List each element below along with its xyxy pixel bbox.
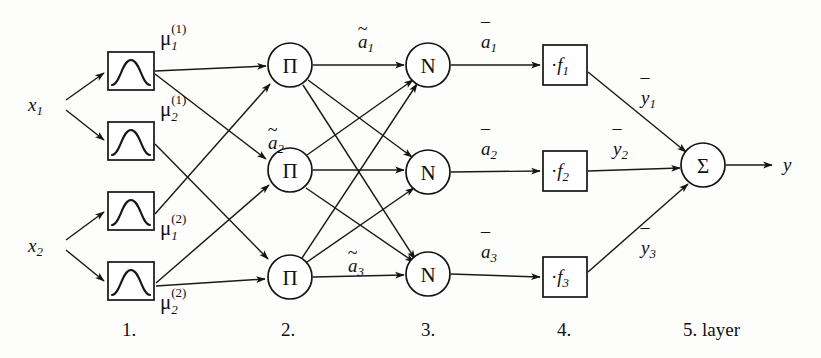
ybar2-sub: 2 xyxy=(621,147,627,162)
mf-sup-mf22: (2) xyxy=(171,286,186,299)
mf-base-mf22: μ xyxy=(160,290,171,314)
normalization-node-n3[interactable]: N xyxy=(406,252,450,296)
tilde-accent-icon: ~ xyxy=(268,121,278,139)
mf-label-mf22: μ (2) 2 xyxy=(160,292,171,313)
edge-label-atilde3: ~a3 xyxy=(348,256,364,279)
atilde2-sub: 2 xyxy=(278,141,284,156)
f2-sub: 2 xyxy=(563,169,569,184)
input-label-x1: x1 xyxy=(28,95,43,118)
product-node-glyph: Π xyxy=(282,159,297,183)
edge-n3-to-f3 xyxy=(451,274,540,277)
normalization-node-glyph: N xyxy=(420,161,435,185)
edge-x2-to-mf12 xyxy=(66,212,104,240)
layer-caption-3: 3. xyxy=(421,320,435,339)
bar-accent-icon: ¯ xyxy=(641,227,650,245)
edge-label-atilde2: ~a2 xyxy=(268,133,284,156)
mf-base-mf12: μ xyxy=(160,216,171,240)
edges-function-to-summation xyxy=(588,72,688,272)
atilde1-sub: 1 xyxy=(368,40,374,55)
product-node-pi1[interactable]: Π xyxy=(268,43,312,87)
ybar1-sub: 1 xyxy=(649,96,655,111)
layer-caption-1: 1. xyxy=(122,320,136,339)
edge-mf11-to-pi1 xyxy=(155,66,266,71)
layer-caption-4: 4. xyxy=(557,320,571,339)
abar2-sub: 2 xyxy=(491,147,497,162)
layer-caption-5: 5. layer xyxy=(683,320,740,339)
edge-label-ybar3: ¯y3 xyxy=(641,238,656,261)
bar-accent-icon: ¯ xyxy=(481,128,490,146)
layer2-product-nodes: Π Π Π xyxy=(268,43,312,299)
bar-accent-icon: ¯ xyxy=(613,128,622,146)
normalization-node-glyph: N xyxy=(420,263,435,287)
mf-base-mf21: μ xyxy=(160,97,171,121)
mf-label-mf11: μ (1) 1 xyxy=(160,28,171,49)
layer3-normalization-nodes: N N N xyxy=(406,43,450,296)
edges-input-x1 xyxy=(66,73,104,140)
normalization-node-n1[interactable]: N xyxy=(406,43,450,87)
mf-sub-mf12: 1 xyxy=(171,229,178,242)
normalization-node-n2[interactable]: N xyxy=(406,150,450,194)
mf-sub-mf22: 2 xyxy=(171,303,178,316)
function-label-f3: ·f3 xyxy=(551,267,569,290)
mf-label-mf12: μ (2) 1 xyxy=(160,218,171,239)
product-node-pi3[interactable]: Π xyxy=(268,255,312,299)
f1-sub: 1 xyxy=(563,63,569,78)
mf-node-mf22[interactable] xyxy=(108,262,154,300)
f3-sub: 3 xyxy=(563,275,569,290)
edge-label-ybar2: ¯y2 xyxy=(613,139,628,162)
input-sub-x1: 1 xyxy=(36,103,42,118)
edge-f2-to-sigma xyxy=(588,168,680,171)
product-node-glyph: Π xyxy=(282,54,297,78)
abar1-sub: 1 xyxy=(491,40,497,55)
edge-label-abar2: ¯a2 xyxy=(481,139,497,162)
edge-n2-to-f2 xyxy=(451,171,540,172)
abar3-sub: 3 xyxy=(491,250,497,265)
summation-node-sigma[interactable]: Σ xyxy=(681,143,725,187)
edge-x1-to-mf11 xyxy=(66,73,104,100)
neuro-fuzzy-network-diagram: Π Π Π N xyxy=(0,0,821,358)
input-sub-x2: 2 xyxy=(36,244,42,259)
mf-base-mf11: μ xyxy=(160,26,171,50)
edge-label-ybar1: ¯y1 xyxy=(641,88,656,111)
function-label-f1: ·f1 xyxy=(551,55,569,78)
network-graph-canvas: Π Π Π N xyxy=(0,0,821,358)
normalization-node-glyph: N xyxy=(420,54,435,78)
layer1-membership-nodes xyxy=(108,52,154,300)
mf-node-mf12[interactable] xyxy=(108,192,154,230)
edge-x1-to-mf21 xyxy=(66,110,104,140)
edges-input-x2 xyxy=(66,212,104,281)
edge-label-atilde1: ~a1 xyxy=(358,32,374,55)
product-node-glyph: Π xyxy=(282,266,297,290)
edge-f3-to-sigma xyxy=(588,184,688,272)
tilde-accent-icon: ~ xyxy=(358,20,368,38)
summation-node-glyph: Σ xyxy=(697,154,709,178)
mf-label-mf21: μ (1) 2 xyxy=(160,99,171,120)
edge-label-abar1: ¯a1 xyxy=(481,32,497,55)
bar-accent-icon: ¯ xyxy=(641,77,650,95)
edge-label-abar3: ¯a3 xyxy=(481,242,497,265)
mf-sup-mf12: (2) xyxy=(171,212,186,225)
mf-node-mf21[interactable] xyxy=(108,122,154,160)
ybar3-sub: 3 xyxy=(649,246,655,261)
atilde3-sub: 3 xyxy=(358,264,364,279)
input-label-x2: x2 xyxy=(28,236,43,259)
function-label-f2: ·f2 xyxy=(551,161,569,184)
output-label-y: y xyxy=(783,155,791,174)
mf-sub-mf11: 1 xyxy=(171,39,178,52)
mf-sub-mf21: 2 xyxy=(171,110,178,123)
mf-sup-mf21: (1) xyxy=(171,93,186,106)
mf-sup-mf11: (1) xyxy=(171,22,186,35)
tilde-accent-icon: ~ xyxy=(348,244,358,262)
edge-x2-to-mf22 xyxy=(66,250,104,281)
bar-accent-icon: ¯ xyxy=(481,21,490,39)
edge-f1-to-sigma xyxy=(588,72,686,152)
mf-node-mf11[interactable] xyxy=(108,52,154,90)
bar-accent-icon: ¯ xyxy=(481,231,490,249)
layer-caption-2: 2. xyxy=(281,320,295,339)
edges-product-to-normalization xyxy=(302,65,417,277)
